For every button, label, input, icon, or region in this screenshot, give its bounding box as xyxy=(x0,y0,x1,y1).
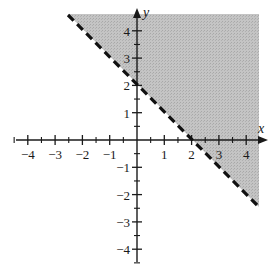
y-axis-arrow-icon xyxy=(133,8,141,18)
y-tick-label: −4 xyxy=(116,242,130,257)
x-tick-label: 4 xyxy=(243,147,250,162)
x-tick-label: 2 xyxy=(188,147,195,162)
y-tick-label: 3 xyxy=(124,51,131,66)
y-axis-label: y xyxy=(141,5,150,20)
x-tick-label: 3 xyxy=(216,147,223,162)
y-tick-label: −3 xyxy=(116,215,130,230)
x-tick-label: −3 xyxy=(48,147,62,162)
inequality-graph: −4−3−2−11234 x 4321−1−2−3−4 y xyxy=(0,0,277,273)
y-tick-label: 1 xyxy=(124,106,131,121)
y-tick-label: 4 xyxy=(124,24,131,39)
y-tick-label: −1 xyxy=(116,160,130,175)
x-tick-label: 1 xyxy=(161,147,168,162)
x-tick-label: −4 xyxy=(21,147,35,162)
x-tick-labels: −4−3−2−11234 xyxy=(21,147,250,162)
y-tick-label: −2 xyxy=(116,188,130,203)
x-tick-label: −1 xyxy=(103,147,117,162)
x-axis-label: x xyxy=(257,121,265,136)
x-tick-label: −2 xyxy=(75,147,89,162)
y-tick-label: 2 xyxy=(124,78,131,93)
